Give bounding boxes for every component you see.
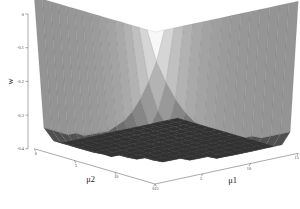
y-tick-label: 15 [155, 186, 159, 191]
y-tick-label: 5 [75, 163, 77, 168]
z-tick-label: -0.1 [17, 45, 24, 50]
z-tick-label: -0.4 [17, 146, 25, 151]
z-tick-label: -0.3 [17, 113, 24, 118]
surface-mesh [34, 0, 298, 162]
z-tick-label: 0 [22, 12, 24, 17]
z-axis-title: w [5, 77, 15, 84]
z-tick-label: -0.2 [17, 79, 24, 84]
x-tick-label: 10 [247, 166, 251, 171]
surface-plot-figure: 0-0.1-0.2-0.3-0.4w151050μ2051015μ1 [0, 0, 300, 209]
x-tick-label: 0 [152, 186, 154, 191]
x-tick-label: 15 [295, 155, 299, 160]
plot-canvas: 0-0.1-0.2-0.3-0.4w151050μ2051015μ1 [0, 0, 300, 209]
y-tick-label: 10 [114, 174, 118, 179]
y-tick-label: 0 [35, 151, 37, 156]
x-tick-label: 5 [200, 176, 202, 181]
y-axis-title: μ2 [86, 174, 95, 184]
x-axis-title: μ1 [228, 175, 237, 185]
